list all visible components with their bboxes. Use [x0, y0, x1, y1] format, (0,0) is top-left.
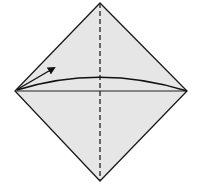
paper-square-diamond — [15, 3, 187, 181]
origami-fold-illustration — [0, 0, 202, 188]
origami-diagram — [0, 0, 202, 188]
